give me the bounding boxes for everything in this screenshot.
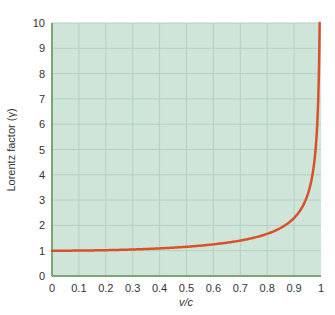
- x-tick-label: 0.3: [125, 282, 140, 294]
- x-tick-label: 0.8: [260, 282, 275, 294]
- y-tick-label: 2: [39, 219, 45, 231]
- y-tick-label: 4: [39, 169, 45, 181]
- y-tick-labels: 012345678910: [33, 17, 45, 282]
- y-tick-label: 3: [39, 194, 45, 206]
- y-tick-label: 1: [39, 245, 45, 257]
- y-tick-label: 5: [39, 144, 45, 156]
- y-tick-label: 10: [33, 17, 45, 29]
- x-tick-labels: 00.10.20.30.40.50.60.70.80.91: [49, 282, 324, 294]
- x-tick-label: 0.9: [286, 282, 301, 294]
- x-tick-label: 1: [318, 282, 324, 294]
- y-tick-label: 8: [39, 68, 45, 80]
- x-axis-title: v/c: [179, 296, 194, 308]
- lorentz-factor-chart: 012345678910 00.10.20.30.40.50.60.70.80.…: [0, 0, 335, 315]
- y-tick-label: 0: [39, 270, 45, 282]
- x-tick-label: 0.2: [98, 282, 113, 294]
- y-tick-label: 6: [39, 118, 45, 130]
- x-tick-label: 0.1: [71, 282, 86, 294]
- x-tick-label: 0.6: [206, 282, 221, 294]
- y-tick-label: 7: [39, 93, 45, 105]
- x-tick-label: 0.4: [152, 282, 167, 294]
- x-tick-label: 0.5: [179, 282, 194, 294]
- y-tick-label: 9: [39, 42, 45, 54]
- x-tick-label: 0: [49, 282, 55, 294]
- x-tick-label: 0.7: [233, 282, 248, 294]
- y-axis-title: Lorentz factor (γ): [5, 108, 17, 191]
